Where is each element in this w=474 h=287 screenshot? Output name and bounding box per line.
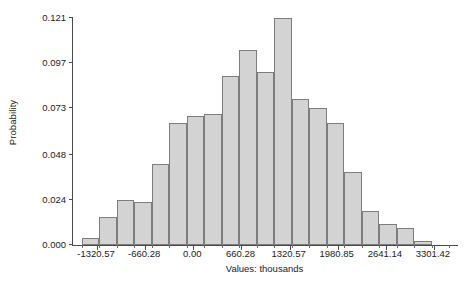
- y-axis-tickmark: [69, 62, 73, 63]
- histogram-bar: [82, 238, 99, 246]
- histogram-bar: [117, 200, 134, 245]
- x-axis-tick-label: 1980.85: [320, 249, 354, 259]
- x-axis-minor-tickmark: [222, 245, 223, 248]
- histogram-bar: [134, 202, 151, 245]
- histogram-bar: [222, 76, 239, 245]
- y-axis-tickmark: [69, 17, 73, 18]
- histogram-bar: [169, 123, 186, 245]
- y-axis-tick-label: 0.000: [20, 240, 66, 250]
- histogram-bar: [309, 108, 326, 245]
- x-axis-title-text: Values: thousands: [226, 263, 303, 274]
- histogram-bar: [362, 211, 379, 245]
- histogram-bar: [414, 241, 431, 245]
- histogram-bar: [397, 228, 414, 245]
- y-axis-tick-label: 0.073: [20, 103, 66, 113]
- plot-area: [72, 18, 458, 246]
- y-axis-tickmark: [69, 244, 73, 245]
- x-axis-minor-tickmark: [309, 245, 310, 248]
- y-axis-tick-label: 0.048: [20, 150, 66, 160]
- x-axis-tick-label: 660.28: [226, 249, 255, 259]
- x-axis-tick-label: -660.28: [128, 249, 160, 259]
- histogram-chart: Probability 0.0000.0240.0480.0730.0970.1…: [0, 0, 474, 287]
- x-axis-minor-tickmark: [169, 245, 170, 248]
- x-axis-minor-tickmark: [362, 245, 363, 248]
- histogram-bar: [379, 224, 396, 245]
- y-axis-title-text: Probability: [8, 100, 19, 145]
- histogram-bar: [327, 123, 344, 245]
- histogram-bar: [292, 99, 309, 245]
- x-axis-minor-tickmark: [117, 245, 118, 248]
- y-axis-tickmark: [69, 107, 73, 108]
- histogram-bar: [204, 114, 221, 245]
- x-axis-tick-label: -1320.57: [77, 249, 115, 259]
- histogram-bar: [274, 18, 291, 245]
- histogram-bar: [99, 217, 116, 245]
- y-axis-tick-label: 0.097: [20, 58, 66, 68]
- x-axis-minor-tickmark: [257, 245, 258, 248]
- histogram-bar: [187, 116, 204, 245]
- histogram-bar: [152, 164, 169, 245]
- histogram-bar: [239, 50, 256, 245]
- y-axis-tick-label: 0.024: [20, 195, 66, 205]
- y-axis-tickmark: [69, 154, 73, 155]
- y-axis-tickmark: [69, 199, 73, 200]
- x-axis-tick-label: 2641.14: [368, 249, 402, 259]
- bars-layer: [73, 18, 458, 245]
- x-axis-tick-label: 3301.42: [416, 249, 450, 259]
- x-axis-tick-label: 0.00: [183, 249, 202, 259]
- y-axis-tick-label: 0.121: [20, 13, 66, 23]
- x-axis-title: Values: thousands: [72, 263, 457, 274]
- histogram-bar: [344, 172, 361, 245]
- x-axis-tick-labels: -1320.57-660.280.00660.281320.571980.852…: [72, 249, 472, 263]
- x-axis-tick-label: 1320.57: [271, 249, 305, 259]
- y-axis-tick-labels: 0.0000.0240.0480.0730.0970.121: [20, 0, 66, 250]
- histogram-bar: [257, 72, 274, 245]
- x-axis-minor-tickmark: [204, 245, 205, 248]
